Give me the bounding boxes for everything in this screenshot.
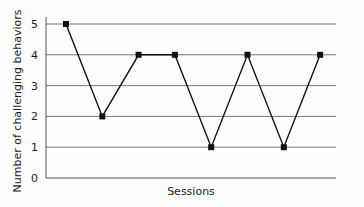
y-tick-label: 4	[31, 49, 38, 62]
data-point-marker	[281, 144, 287, 150]
y-tick-labels: 012345	[31, 18, 38, 185]
data-point-marker	[99, 113, 105, 119]
data-point-marker	[63, 21, 69, 27]
y-tick-label: 2	[31, 110, 38, 123]
data-point-marker	[136, 52, 142, 58]
gridlines	[46, 24, 336, 178]
data-point-marker	[245, 52, 251, 58]
line-chart: 012345 Sessions Number of challenging be…	[0, 0, 364, 207]
y-tick-label: 0	[31, 172, 38, 185]
data-point-marker	[317, 52, 323, 58]
y-tick-label: 5	[31, 18, 38, 31]
data-point-marker	[172, 52, 178, 58]
x-axis-label: Sessions	[167, 185, 215, 198]
y-tick-label: 1	[31, 141, 38, 154]
y-axis-label: Number of challenging behaviors	[11, 9, 24, 192]
data-point-marker	[208, 144, 214, 150]
y-tick-label: 3	[31, 80, 38, 93]
